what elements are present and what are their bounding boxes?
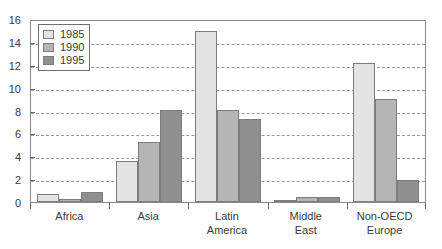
bar — [138, 142, 160, 202]
y-axis-tick-label: 2 — [15, 175, 21, 186]
x-axis-category-label-line: East — [266, 223, 345, 237]
x-axis-category-label-line: Middle — [266, 209, 345, 223]
bar — [353, 63, 375, 202]
x-axis-category-label-line: Africa — [30, 209, 109, 223]
x-axis-category-label: Africa — [30, 209, 109, 223]
x-axis-category-label: Non-OECDEurope — [345, 209, 424, 237]
x-axis-category-label: LatinAmerica — [188, 209, 267, 237]
bar — [160, 110, 182, 202]
bar — [274, 200, 296, 202]
x-axis-category-label: MiddleEast — [266, 209, 345, 237]
legend-label: 1995 — [60, 55, 84, 66]
bar — [296, 197, 318, 202]
x-axis-category-label-line: Non-OECD — [345, 209, 424, 223]
legend-item: 1995 — [43, 54, 84, 67]
x-axis-category-label-line: Asia — [109, 209, 188, 223]
x-axis-category-label-line: Latin — [188, 209, 267, 223]
y-axis-tick-label: 4 — [15, 152, 21, 163]
bar-group — [353, 20, 419, 202]
bar-group — [116, 20, 182, 202]
x-axis-category-label: Asia — [109, 209, 188, 223]
bar — [116, 161, 138, 202]
x-axis-category-label-line: America — [188, 223, 267, 237]
y-axis-tick-label: 0 — [15, 198, 21, 209]
legend-item: 1990 — [43, 41, 84, 54]
bar — [397, 180, 419, 202]
bar — [217, 110, 239, 202]
x-axis-category-label-line: Europe — [345, 223, 424, 237]
bar — [239, 119, 261, 202]
legend-swatch — [43, 56, 54, 65]
bar — [37, 194, 59, 202]
y-axis-tick-label: 10 — [9, 83, 21, 94]
y-axis-tick-label: 14 — [9, 37, 21, 48]
legend-item: 1985 — [43, 28, 84, 41]
bar — [375, 99, 397, 203]
bar-group — [195, 20, 261, 202]
bar — [195, 31, 217, 202]
y-axis-tick-label: 6 — [15, 129, 21, 140]
bar — [59, 199, 81, 202]
bar-chart: 0246810121416 AfricaAsiaLatinAmericaMidd… — [0, 0, 442, 249]
legend-swatch — [43, 30, 54, 39]
y-axis-tick-label: 16 — [9, 15, 21, 26]
legend-label: 1990 — [60, 42, 84, 53]
bar — [318, 197, 340, 202]
legend-swatch — [43, 43, 54, 52]
legend: 198519901995 — [38, 24, 90, 71]
y-axis-tick-label: 8 — [15, 106, 21, 117]
legend-label: 1985 — [60, 29, 84, 40]
y-axis-tick-label: 12 — [9, 60, 21, 71]
x-axis: AfricaAsiaLatinAmericaMiddleEastNon-OECD… — [30, 209, 426, 249]
y-axis: 0246810121416 — [0, 20, 26, 203]
bar — [81, 192, 103, 202]
bar-group — [274, 20, 340, 202]
